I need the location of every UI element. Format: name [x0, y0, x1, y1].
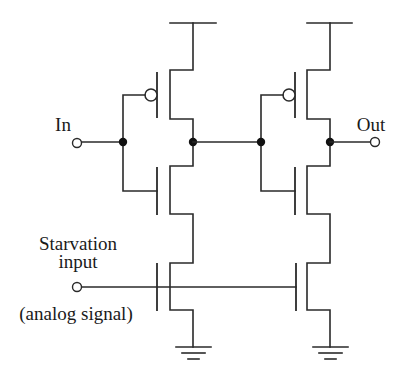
- circuit-diagram: In Out Starvation input (analog signal): [0, 0, 401, 373]
- stage-2: [257, 23, 370, 359]
- stage2-gate-connection: [261, 95, 295, 191]
- stage1-channel-path: [170, 23, 193, 347]
- ground-icon: [176, 347, 211, 359]
- stage2-channel-path: [307, 23, 330, 347]
- starvation-terminal: [73, 283, 82, 292]
- input-label: In: [55, 114, 71, 135]
- starvation-note: (analog signal): [19, 303, 132, 325]
- input-junction-node: [119, 138, 127, 146]
- p1-gate-bubble: [145, 89, 157, 101]
- stage2-input-node: [257, 138, 265, 146]
- starvation-label-line2: input: [58, 251, 98, 272]
- input-terminal: [73, 139, 82, 148]
- output-label: Out: [357, 114, 386, 135]
- output-terminal: [371, 138, 380, 147]
- ground-icon: [313, 347, 348, 359]
- stage1-gate-connection: [123, 95, 157, 191]
- p2-gate-bubble: [283, 89, 295, 101]
